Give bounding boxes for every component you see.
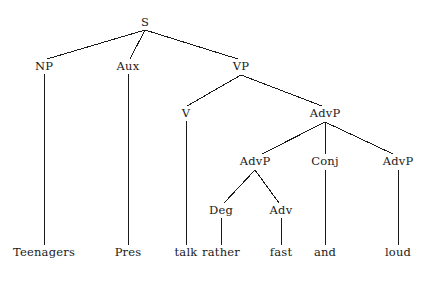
tree-edge-VP-to-V [187, 75, 241, 106]
terminal-node-w1: Teenagers [11, 247, 76, 259]
tree-edge-VP-to-AdvP1 [241, 75, 322, 106]
nonterminal-node-vp: VP [231, 61, 250, 73]
nonterminal-node-advp3: AdvP [381, 156, 415, 168]
nonterminal-node-aux: Aux [115, 61, 141, 73]
nonterminal-node-advp1: AdvP [308, 108, 342, 120]
nonterminal-node-deg: Deg [208, 205, 235, 217]
terminal-node-w2: Pres [113, 247, 143, 259]
nonterminal-node-adv: Adv [268, 205, 294, 217]
nonterminal-node-conj: Conj [310, 156, 341, 168]
nonterminal-node-v: V [180, 108, 192, 120]
tree-edge-AdvP1-to-AdvP3 [325, 122, 393, 154]
terminal-node-w6: and [312, 247, 337, 259]
syntax-tree-figure: SNPAuxVPVAdvPAdvPConjAdvPDegAdvTeenagers… [0, 0, 430, 281]
terminal-node-w7: loud [383, 247, 412, 259]
tree-edge-AdvP2-to-Deg [224, 170, 255, 203]
terminal-node-w5: fast [268, 247, 293, 259]
nonterminal-node-np: NP [33, 61, 54, 73]
tree-edges-layer [0, 0, 430, 281]
terminal-node-w4: rather [201, 247, 242, 259]
tree-edge-S-to-NP [47, 30, 145, 59]
nonterminal-node-s: S [139, 17, 150, 29]
tree-edge-AdvP2-to-Adv [255, 170, 279, 203]
tree-edge-S-to-VP [145, 30, 238, 59]
terminal-node-w3: talk [173, 247, 199, 259]
tree-edge-AdvP1-to-AdvP2 [262, 122, 325, 154]
tree-edge-S-to-Aux [130, 30, 145, 59]
nonterminal-node-advp2: AdvP [238, 156, 272, 168]
